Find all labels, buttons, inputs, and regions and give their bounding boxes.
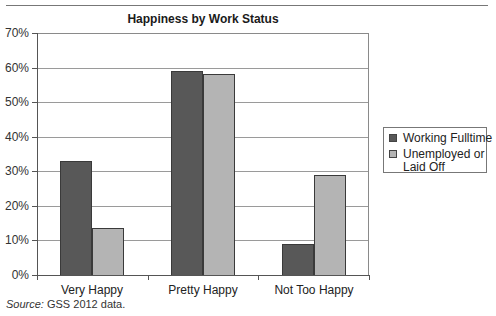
legend-label: Working Fulltime <box>403 132 492 145</box>
legend-swatch-unemployed <box>389 150 397 158</box>
source-note: Source: GSS 2012 data. <box>6 298 125 310</box>
x-category-label: Not Too Happy <box>259 283 369 297</box>
x-category-label: Very Happy <box>37 283 147 297</box>
y-tick-label: 60% <box>0 61 29 75</box>
x-category-label: Pretty Happy <box>148 283 258 297</box>
top-rule <box>6 5 488 6</box>
plot-area <box>37 33 369 275</box>
y-tick-label: 0% <box>0 268 29 282</box>
source-text: GSS 2012 data. <box>44 298 125 310</box>
y-axis <box>37 33 38 276</box>
legend: Working Fulltime Unemployed or Laid Off <box>383 127 487 173</box>
y-tick-label: 10% <box>0 233 29 247</box>
legend-swatch-working <box>389 134 397 142</box>
chart-title: Happiness by Work Status <box>37 12 369 26</box>
source-prefix: Source: <box>6 298 44 310</box>
y-tick-label: 50% <box>0 95 29 109</box>
y-tick-label: 20% <box>0 199 29 213</box>
y-tick-label: 30% <box>0 164 29 178</box>
x-axis <box>37 275 370 276</box>
legend-label-line2: Laid Off <box>403 161 445 174</box>
y-tick-label: 40% <box>0 130 29 144</box>
y-tick-label: 70% <box>0 26 29 40</box>
